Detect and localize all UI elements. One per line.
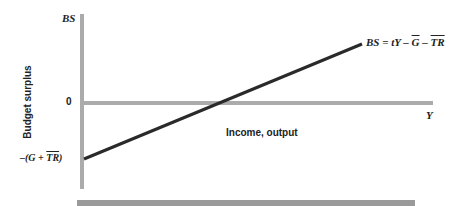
- intercept-tr: TR: [46, 152, 59, 163]
- x-axis-symbol: Y: [426, 109, 433, 121]
- zero-tick-label: 0: [66, 96, 72, 107]
- equation-g: G: [412, 36, 420, 48]
- intercept-plus: +: [36, 152, 47, 163]
- equation-tr: TR: [431, 36, 445, 48]
- y-axis-symbol: BS: [62, 12, 75, 24]
- intercept-g: G: [28, 152, 35, 163]
- intercept-label: –(G + TR): [20, 152, 62, 163]
- equation-minus: –: [420, 36, 431, 48]
- y-axis-title: Budget surplus: [21, 61, 35, 143]
- intercept-suffix: ): [59, 152, 62, 163]
- equation-lhs: BS: [366, 36, 379, 48]
- y-axis: [80, 14, 84, 189]
- equation-mid: = tY –: [379, 36, 411, 48]
- line-equation-label: BS = tY – G – TR: [366, 36, 445, 48]
- x-axis-title: Income, output: [226, 127, 298, 138]
- x-axis: [84, 101, 433, 105]
- bottom-bar: [77, 200, 415, 206]
